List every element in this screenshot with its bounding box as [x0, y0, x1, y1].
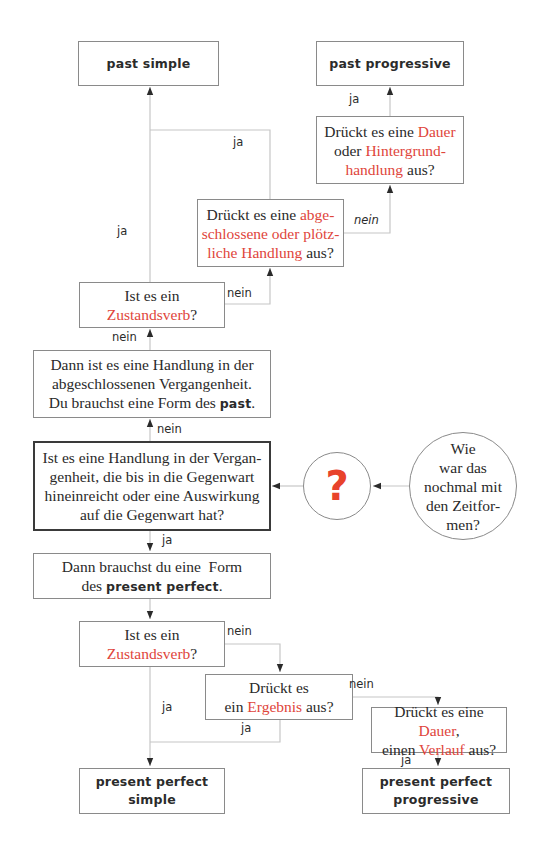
text: present perfect [380, 774, 493, 789]
node-text: Drückt es eine abge- schlossene oder plö… [202, 205, 340, 262]
node-past-progressive: past progressive [316, 41, 464, 86]
label-nein: nein [112, 330, 137, 344]
text: Wie [450, 440, 475, 457]
highlight-text: schlossene oder plötz- [202, 225, 340, 242]
text: oder [334, 142, 365, 159]
label-ja: ja [117, 224, 127, 238]
highlight-text: liche Handlung [207, 244, 302, 261]
text: Drückt es eine [207, 206, 300, 223]
node-label: past progressive [329, 54, 450, 73]
text: Dann ist es eine Handlung in der [50, 356, 253, 373]
text: nochmal mit [424, 478, 502, 495]
label-ja: ja [349, 92, 359, 106]
tense-term: past [220, 396, 252, 411]
node-text: present perfect progressive [380, 773, 493, 809]
text: des [81, 577, 106, 594]
label-nein: nein [354, 213, 379, 227]
highlight-text: abge- [300, 206, 334, 223]
text: present perfect [96, 774, 209, 789]
text: hineinreicht oder eine Auswirkung [45, 487, 260, 504]
text: Drückt es eine [324, 123, 417, 140]
label-nein: nein [349, 677, 374, 691]
node-abgeschlossen-question: Drückt es eine abge- schlossene oder plö… [197, 199, 344, 267]
label-ja: ja [162, 533, 172, 547]
node-text: Ist es ein Zustandsverb? [107, 286, 197, 324]
highlight-text: Zustandsverb [107, 645, 191, 662]
text: . [251, 394, 255, 411]
highlight-text: Zustandsverb [107, 306, 191, 323]
highlight-text: handlung [345, 161, 403, 178]
node-zustandsverb-top: Ist es ein Zustandsverb? [79, 282, 225, 328]
text: progressive [393, 792, 478, 807]
text: men? [446, 516, 480, 533]
text: Ist es ein [124, 626, 179, 643]
text: Dann brauchst du eine Form [62, 558, 242, 575]
node-text: Drückt es eine Dauer, einen Verlauf aus? [372, 702, 506, 759]
node-text: Drückt es eine Dauer oder Hintergrund- h… [324, 122, 455, 179]
text: Ist es ein [124, 287, 179, 304]
label-nein: nein [227, 624, 252, 638]
text: aus? [302, 244, 333, 261]
node-label: past simple [107, 54, 191, 73]
text: simple [128, 792, 176, 807]
node-dauer-question: Drückt es eine Dauer oder Hintergrund- h… [316, 116, 464, 184]
text: aus? [302, 698, 333, 715]
question-mark-circle: ? [303, 452, 371, 520]
node-present-perfect-simple: present perfect simple [79, 768, 225, 814]
node-text: present perfect simple [96, 773, 209, 809]
node-text: Ist es eine Handlung in der Vergan- genh… [43, 448, 262, 524]
highlight-text: Ergebnis [247, 698, 302, 715]
node-present-perfect-progressive: present perfect progressive [362, 768, 510, 814]
text: , [456, 722, 460, 739]
text: Du brauchst eine Form des [49, 394, 220, 411]
highlight-text: Dauer [418, 123, 456, 140]
tense-term: present perfect [106, 579, 219, 594]
text: genheit, die bis in die Gegenwart [50, 468, 255, 485]
node-past-statement: Dann ist es eine Handlung in der abgesch… [33, 350, 271, 418]
label-nein: nein [157, 422, 182, 436]
label-ja: ja [162, 700, 172, 714]
node-present-perfect-statement: Dann brauchst du eine Form des present p… [33, 553, 271, 599]
highlight-text: Verlauf [419, 741, 465, 758]
text: ? [190, 645, 197, 662]
node-past-simple: past simple [78, 41, 219, 86]
text: Drückt es eine [394, 703, 484, 720]
text: war das [439, 459, 487, 476]
node-text: Dann ist es eine Handlung in der abgesch… [49, 355, 255, 413]
question-mark-icon: ? [325, 463, 348, 509]
text: Drückt es [249, 679, 309, 696]
node-zustandsverb-bottom: Ist es ein Zustandsverb? [79, 621, 225, 667]
node-text: Dann brauchst du eine Form des present p… [62, 557, 242, 596]
node-ergebnis-question: Drückt es ein Ergebnis aus? [205, 674, 353, 720]
text: aus? [465, 741, 496, 758]
start-circle: Wie war das nochmal mit den Zeitfor- men… [409, 432, 517, 540]
node-main-question: Ist es eine Handlung in der Vergan- genh… [33, 441, 271, 531]
label-ja: ja [233, 135, 243, 149]
highlight-text: Dauer [418, 722, 455, 739]
node-text: Ist es ein Zustandsverb? [107, 625, 197, 663]
node-verlauf-question: Drückt es eine Dauer, einen Verlauf aus? [371, 707, 507, 753]
text: abgeschlossenen Vergangenheit. [52, 375, 252, 392]
text: ein [224, 698, 247, 715]
text: ? [190, 306, 197, 323]
text: den Zeitfor- [426, 497, 500, 514]
highlight-text: Hintergrund- [365, 142, 446, 159]
label-ja: ja [241, 721, 251, 735]
label-nein: nein [227, 286, 252, 300]
node-text: Drückt es ein Ergebnis aus? [224, 678, 333, 716]
node-text: Wie war das nochmal mit den Zeitfor- men… [424, 439, 502, 534]
text: aus? [403, 161, 434, 178]
text: . [219, 577, 223, 594]
text: Ist es eine Handlung in der Vergan- [43, 449, 262, 466]
label-ja: ja [401, 753, 411, 767]
text: auf die Gegenwart hat? [80, 506, 224, 523]
